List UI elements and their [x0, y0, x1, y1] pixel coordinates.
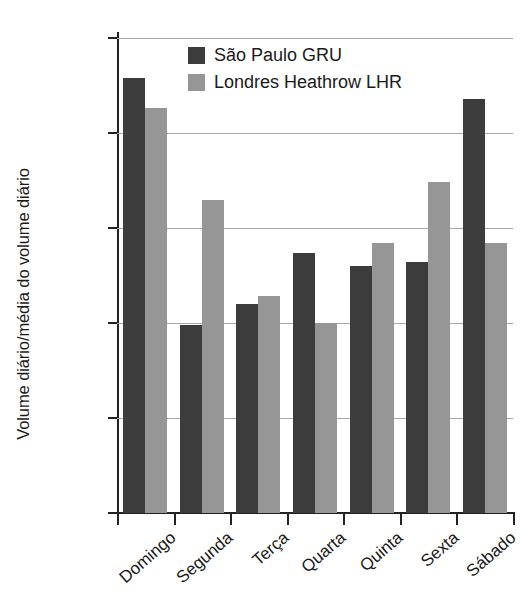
- x-tick-label: Quarta: [298, 528, 350, 577]
- bar: [350, 266, 372, 513]
- x-tick-mark: [174, 513, 176, 525]
- bar: [258, 296, 280, 513]
- plot-area: [117, 38, 513, 513]
- x-tick-mark: [287, 513, 289, 525]
- bar: [463, 99, 485, 513]
- x-tick-mark: [456, 513, 458, 525]
- bar: [236, 304, 258, 513]
- bar: [180, 325, 202, 513]
- gridline: [117, 38, 513, 39]
- bar: [145, 108, 167, 513]
- legend-swatch-icon: [188, 74, 205, 91]
- x-tick-label: Quinta: [356, 528, 407, 576]
- bar: [372, 243, 394, 513]
- x-tick-mark: [230, 513, 232, 525]
- bar: [428, 182, 450, 513]
- bar: [123, 78, 145, 513]
- legend-label: Londres Heathrow LHR: [214, 72, 402, 93]
- x-tick-label: Terça: [249, 528, 294, 570]
- bar: [406, 262, 428, 513]
- legend-label: São Paulo GRU: [214, 45, 342, 66]
- x-tick-label: Segunda: [172, 528, 237, 588]
- bar-chart: Volume diário/média do volume diário 1,1…: [0, 0, 525, 608]
- gridline: [117, 133, 513, 134]
- x-tick-mark: [513, 513, 515, 525]
- bar: [202, 200, 224, 514]
- x-tick-label: Domingo: [116, 528, 180, 588]
- legend-item: Londres Heathrow LHR: [188, 69, 402, 96]
- bar: [293, 253, 315, 513]
- legend-item: São Paulo GRU: [188, 42, 402, 69]
- y-axis-title: Volume diário/média do volume diário: [0, 0, 46, 608]
- x-tick-mark: [343, 513, 345, 525]
- gridline: [117, 228, 513, 229]
- x-tick-mark: [117, 513, 119, 525]
- x-tick-label: Sábado: [462, 528, 519, 582]
- bar: [315, 323, 337, 513]
- bar: [485, 243, 507, 513]
- legend-swatch-icon: [188, 47, 205, 64]
- x-tick-mark: [400, 513, 402, 525]
- chart-legend: São Paulo GRULondres Heathrow LHR: [188, 42, 402, 96]
- x-tick-label: Sexta: [417, 528, 463, 572]
